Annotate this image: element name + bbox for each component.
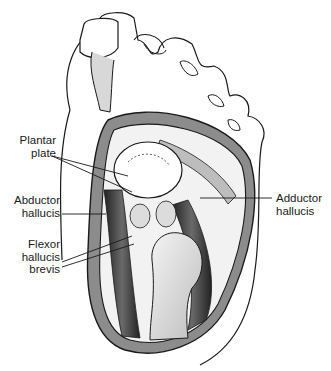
toenail bbox=[80, 18, 118, 57]
label-adductor-hallucis: Adductor hallucis bbox=[276, 192, 331, 217]
foot-anatomy-illustration: Plantar plate Abductor hallucis Flexor h… bbox=[0, 0, 331, 371]
label-abductor-hallucis: Abductor hallucis bbox=[8, 194, 60, 219]
label-flexor-hallucis-brevis: Flexor hallucis brevis bbox=[8, 238, 60, 276]
plantar-plate-structure bbox=[114, 142, 182, 198]
foot-drawing bbox=[0, 0, 331, 371]
label-plantar-plate: Plantar plate bbox=[14, 134, 56, 159]
